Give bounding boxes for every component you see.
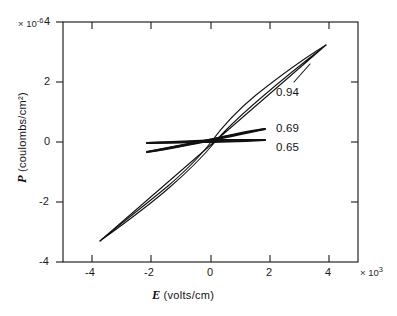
- y-tick-label-neg4: -4: [39, 255, 49, 267]
- y-tick-label-4: 4: [44, 15, 50, 27]
- x-axis-ticks-top: [92, 22, 329, 29]
- x-axis-ticks-bottom: [92, 255, 329, 262]
- x-tick-label-0: 0: [207, 266, 213, 278]
- y-tick-label-neg2: -2: [39, 195, 49, 207]
- label-leader-094: [294, 64, 310, 82]
- x-tick-label-neg4: -4: [85, 266, 95, 278]
- x-axis-exponent: × 103: [360, 265, 383, 278]
- hysteresis-loop-065: [147, 140, 265, 143]
- x-axis-title: E (volts/cm): [152, 288, 214, 303]
- y-axis-ticks-right: [351, 82, 358, 202]
- y-axis-exponent: × 10-6: [18, 16, 43, 29]
- plot-canvas: [0, 0, 397, 316]
- curve-label-065: 0.65: [276, 141, 299, 153]
- curve-label-069: 0.69: [276, 122, 299, 134]
- curve-label-094: 0.94: [276, 86, 299, 98]
- x-tick-label-4: 4: [325, 266, 331, 278]
- y-axis-title: P (coulombs/cm²): [15, 78, 30, 198]
- figure-container: × 10-6 4 2 0 -2 -4 -4 -2 0 2 4 × 103 0.9…: [0, 0, 397, 316]
- x-tick-label-2: 2: [266, 266, 272, 278]
- y-tick-label-2: 2: [44, 75, 50, 87]
- x-tick-label-neg2: -2: [144, 266, 154, 278]
- y-axis-ticks-left: [56, 22, 63, 262]
- y-tick-label-0: 0: [44, 135, 50, 147]
